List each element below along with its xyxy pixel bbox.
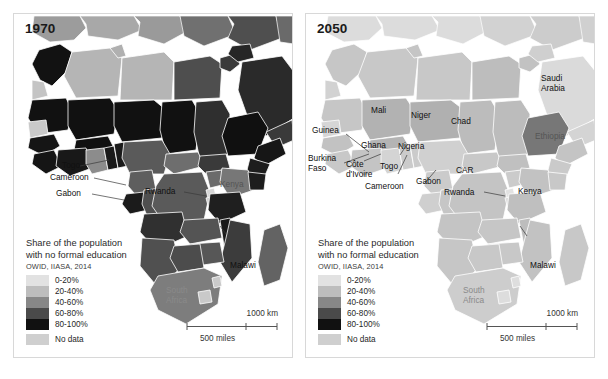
legend-row-0-20: 0-20% [26,275,127,286]
cdi-line1: Côte [346,159,364,169]
legend-swatch-0-20 [318,275,341,286]
legend-1970: Share of the population with no formal e… [26,238,127,345]
map-label-chad: Chad [451,117,471,127]
legend-row-40-60: 40-60% [318,297,419,308]
legend-label-40-60: 40-60% [347,298,375,307]
legend-title-line2: with no formal education [26,250,127,260]
saudi-line2: Arabia [246,85,270,95]
legend-row-40-60: 40-60% [26,297,127,308]
map-label-malawi: Malawi [230,261,256,271]
burkina-line2: Faso [308,163,326,173]
map-label-ethiopia: Ethiopia [535,132,565,142]
map-label-cameroon: Cameroon [365,182,404,192]
map-label-saudi-arabia: Saudi Arabia [541,74,565,93]
legend-swatch-no-data [318,334,341,345]
map-label-gabon: Gabon [416,177,441,187]
legend-swatch-40-60 [26,297,49,308]
scalebar-2050: 1000 km 500 miles [486,309,578,343]
legend-row-80-100: 80-100% [26,319,127,330]
saudi-line1: Saudi [246,75,267,85]
map-label-malawi: Malawi [530,261,556,271]
legend-label-60-80: 60-80% [347,309,375,318]
map-label-cameroon: Cameroon [50,173,89,183]
legend-title-line1: Share of the population [26,238,122,248]
sa-line1: South [166,285,188,295]
legend-label-0-20: 0-20% [55,276,79,285]
map-label-niger: Niger [411,111,431,121]
map-label-rwanda: Rwanda [145,187,175,197]
map-label-gabon: Gabon [56,189,81,199]
legend-label-80-100: 80-100% [55,320,88,329]
legend-row-80-100: 80-100% [318,319,419,330]
legend-row-no-data: No data [318,334,419,345]
map-label-rwanda: Rwanda [444,188,474,198]
scalebar-ticks [186,322,278,331]
sa-line2: Africa [463,295,484,305]
legend-row-60-80: 60-80% [26,308,127,319]
map-label-cote-divoire: Côte d'Ivoire [346,160,373,179]
legend-source: OWID, IIASA, 2014 [26,262,127,271]
burkina-line1: Burkina [308,153,336,163]
legend-label-40-60: 40-60% [55,298,83,307]
legend-2050: Share of the population with no formal e… [318,238,419,345]
cdi-line2: d'Ivoire [346,169,373,179]
year-label-2050: 2050 [317,21,347,36]
legend-label-20-40: 20-40% [347,287,375,296]
legend-label-60-80: 60-80% [55,309,83,318]
saudi-line1: Saudi [541,73,562,83]
legend-label-no-data: No data [347,335,376,344]
scalebar-km-label: 1000 km [247,309,278,318]
legend-label-80-100: 80-100% [347,320,380,329]
map-label-togo: Togo [380,162,398,172]
map-panel-1970: 1970 Togo Cameroon Gabon Rwanda Kenya Sa… [13,13,293,358]
legend-label-20-40: 20-40% [55,287,83,296]
map-label-ghana: Ghana [361,141,386,151]
scalebar-1970: 1000 km 500 miles [186,309,278,343]
legend-row-20-40: 20-40% [318,286,419,297]
legend-scale: 0-20% 20-40% 40-60% 60-80% [318,275,419,345]
scalebar-ticks [486,322,578,331]
map-panel-2050: 2050 Mali Niger Chad Saudi Arabia Guinea… [305,13,595,358]
map-label-mali: Mali [371,106,386,116]
legend-row-60-80: 60-80% [318,308,419,319]
legend-swatch-20-40 [26,286,49,297]
scalebar-miles-label: 500 miles [500,334,535,343]
legend-row-20-40: 20-40% [26,286,127,297]
legend-title: Share of the population with no formal e… [318,238,419,261]
legend-swatch-no-data [26,334,49,345]
legend-row-no-data: No data [26,334,127,345]
legend-swatch-60-80 [318,308,341,319]
legend-title-line2: with no formal education [318,250,419,260]
map-label-kenya: Kenya [220,180,244,190]
legend-source: OWID, IIASA, 2014 [318,262,419,271]
map-label-south-africa: South Africa [166,286,188,305]
legend-swatch-60-80 [26,308,49,319]
year-label-1970: 1970 [25,21,55,36]
legend-label-0-20: 0-20% [347,276,371,285]
legend-title-line1: Share of the population [318,238,414,248]
legend-title: Share of the population with no formal e… [26,238,127,261]
map-label-togo: Togo [62,161,80,171]
scalebar-km-label: 1000 km [547,309,578,318]
map-label-kenya: Kenya [518,187,542,197]
legend-swatch-40-60 [318,297,341,308]
sa-line2: Africa [166,295,187,305]
two-panel-map-figure: 1970 Togo Cameroon Gabon Rwanda Kenya Sa… [0,0,608,379]
map-label-burkina-faso: Burkina Faso [308,154,336,173]
sa-line1: South [463,285,485,295]
legend-swatch-80-100 [318,319,341,330]
legend-row-0-20: 0-20% [318,275,419,286]
legend-swatch-0-20 [26,275,49,286]
legend-scale: 0-20% 20-40% 40-60% 60-80% [26,275,127,345]
map-label-south-africa: South Africa [463,286,485,305]
legend-swatch-20-40 [318,286,341,297]
map-label-saudi-arabia: Saudi Arabia [246,76,270,95]
legend-swatch-80-100 [26,319,49,330]
scalebar-miles-label: 500 miles [200,334,235,343]
map-label-car: CAR [456,166,474,176]
map-label-guinea: Guinea [312,126,339,136]
legend-label-no-data: No data [55,335,84,344]
saudi-line2: Arabia [541,83,565,93]
map-label-nigeria: Nigeria [398,142,424,152]
